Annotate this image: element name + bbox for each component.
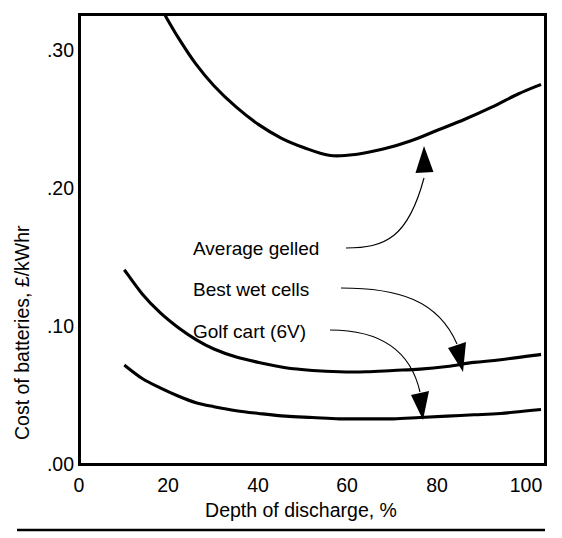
curve-best-wet-cells xyxy=(124,270,541,372)
y-tick-label-030: .30 xyxy=(47,39,74,61)
leader-line-best-wet-cells xyxy=(341,288,457,344)
annotation-label-golf-cart: Golf cart (6V) xyxy=(193,321,306,342)
y-tick-label-000: .00 xyxy=(47,453,74,475)
x-tick-label-60: 60 xyxy=(336,474,358,496)
arrow-head-average-gelled xyxy=(416,146,434,173)
battery-cost-chart: Cost of batteries, £/kWhr .30 .20 .10 .0… xyxy=(0,0,562,538)
leader-line-average-gelled xyxy=(346,178,424,248)
x-tick-label-0: 0 xyxy=(74,474,85,496)
y-tick-label-020: .20 xyxy=(47,177,74,199)
figure-container: Cost of batteries, £/kWhr .30 .20 .10 .0… xyxy=(0,0,562,538)
annotation-label-best-wet-cells: Best wet cells xyxy=(193,279,309,300)
x-tick-label-20: 20 xyxy=(157,474,179,496)
arrow-head-best-wet-cells xyxy=(448,342,466,372)
y-tick-label-010: .10 xyxy=(47,315,74,337)
curve-golf-cart xyxy=(124,365,541,419)
x-tick-label-80: 80 xyxy=(426,474,448,496)
leader-line-golf-cart xyxy=(330,330,420,392)
curve-average-gelled xyxy=(165,15,541,156)
x-tick-label-40: 40 xyxy=(247,474,269,496)
annotation-label-average-gelled: Average gelled xyxy=(193,238,319,259)
x-tick-label-100: 100 xyxy=(510,474,543,496)
x-axis-title: Depth of discharge, % xyxy=(205,499,397,521)
y-axis-title: Cost of batteries, £/kWhr xyxy=(11,225,33,440)
